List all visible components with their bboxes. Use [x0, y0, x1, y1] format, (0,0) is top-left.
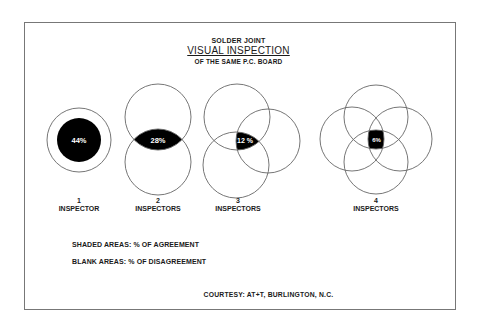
agreement-percent: 28% — [150, 136, 165, 145]
diagram-3-inspectors: 12 % — [203, 84, 300, 198]
venn-diagrams: 44% 28% 12 % — [0, 0, 477, 330]
diagram-1-label: 1 INSPECTOR — [34, 197, 124, 213]
inspector-label: INSPECTORS — [193, 205, 283, 213]
diagram-4-label: 4 INSPECTORS — [331, 197, 421, 213]
agreement-percent: 6% — [372, 137, 381, 143]
legend-blank: BLANK AREAS: % OF DISAGREEMENT — [72, 258, 206, 265]
inspector-label: INSPECTORS — [331, 205, 421, 213]
legend-shaded: SHADED AREAS: % OF AGREEMENT — [72, 241, 199, 248]
diagram-4-inspectors: 6% — [320, 85, 432, 194]
inspector-label: INSPECTORS — [113, 205, 203, 213]
agreement-percent: 12 % — [237, 137, 254, 144]
inspector-count: 2 — [113, 197, 203, 205]
inspector-count: 4 — [331, 197, 421, 205]
diagram-2-label: 2 INSPECTORS — [113, 197, 203, 213]
diagram-3-label: 3 INSPECTORS — [193, 197, 283, 213]
inspector-label: INSPECTOR — [34, 205, 124, 213]
agreement-percent: 44% — [71, 136, 86, 145]
inspector-count: 1 — [34, 197, 124, 205]
diagram-2-inspectors: 28% — [125, 84, 191, 195]
diagram-1-inspector: 44% — [47, 108, 111, 172]
courtesy-credit: COURTESY: AT+T, BURLINGTON, N.C. — [0, 291, 477, 298]
inspector-count: 3 — [193, 197, 283, 205]
